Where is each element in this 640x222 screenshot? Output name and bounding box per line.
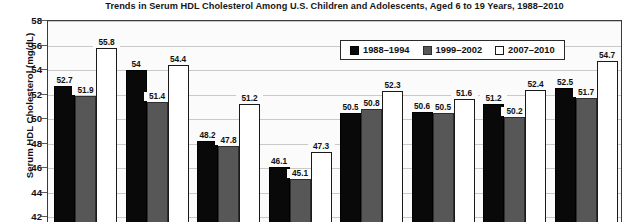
bar-group-2-series-2 — [147, 102, 168, 222]
bar-group-8-series-2 — [576, 98, 597, 222]
legend-label-3: 2007–2010 — [508, 45, 555, 55]
gray-square-icon — [423, 46, 432, 55]
y-tick-label-42: 42 — [12, 211, 42, 222]
bar-group-5-series-2 — [361, 109, 382, 222]
bar-value-label-g6-s2: 50.5 — [430, 103, 457, 112]
bar-group-1-series-1 — [54, 86, 75, 222]
bar-group-3-series-2 — [218, 146, 239, 222]
bar-value-label-g1-s3: 55.8 — [93, 38, 120, 47]
bar-group-6-series-2 — [433, 113, 454, 222]
bar-group-3-series-3 — [239, 104, 260, 222]
bar-group-1-series-2 — [75, 96, 96, 222]
legend-label-2: 1999–2002 — [436, 45, 483, 55]
bar-value-label-g4-s2: 45.1 — [287, 169, 314, 178]
y-tick-label-46: 46 — [12, 162, 42, 173]
chart-title: Trends in Serum HDL Cholesterol Among U.… — [47, 1, 622, 11]
y-tick-label-52: 52 — [12, 88, 42, 99]
bar-group-3-series-1 — [197, 141, 218, 222]
gridline-58 — [48, 21, 621, 22]
chart-legend: 1988–19941999–20022007–2010 — [340, 40, 565, 60]
y-axis-title: Serum HDL Cholesterol (mg/dL) — [24, 6, 35, 206]
bar-value-label-g7-s1: 51.2 — [480, 94, 507, 103]
bar-group-8-series-1 — [555, 88, 576, 222]
bar-group-5-series-1 — [340, 113, 361, 222]
bar-value-label-g4-s3: 47.3 — [308, 142, 335, 151]
y-tick-label-54: 54 — [12, 64, 42, 75]
white-square-icon — [495, 46, 504, 55]
bar-value-label-g5-s2: 50.8 — [358, 99, 385, 108]
bar-group-2-series-3 — [168, 65, 189, 222]
bar-value-label-g6-s3: 51.6 — [451, 89, 478, 98]
bar-value-label-g8-s1: 52.5 — [552, 78, 579, 87]
bar-value-label-g1-s2: 51.9 — [72, 86, 99, 95]
bar-value-label-g5-s3: 52.3 — [379, 81, 406, 90]
bar-value-label-g1-s1: 52.7 — [51, 76, 78, 85]
bar-value-label-g2-s3: 54.4 — [165, 55, 192, 64]
bar-value-label-g2-s1: 54 — [123, 60, 150, 69]
bar-group-4-series-3 — [311, 152, 332, 222]
legend-item-3[interactable]: 2007–2010 — [495, 45, 555, 55]
bar-chart: Trends in Serum HDL Cholesterol Among U.… — [0, 0, 640, 222]
y-tick-label-58: 58 — [12, 15, 42, 26]
bar-group-4-series-2 — [290, 179, 311, 222]
black-square-icon — [350, 46, 359, 55]
legend-label-1: 1988–1994 — [363, 45, 410, 55]
legend-item-1[interactable]: 1988–1994 — [350, 45, 410, 55]
bar-value-label-g8-s2: 51.7 — [573, 88, 600, 97]
bar-value-label-g3-s2: 47.8 — [215, 136, 242, 145]
bar-group-7-series-2 — [504, 117, 525, 222]
bar-group-6-series-1 — [412, 112, 433, 222]
bar-group-5-series-3 — [382, 91, 403, 222]
bar-value-label-g4-s1: 46.1 — [266, 157, 293, 166]
bar-group-6-series-3 — [454, 99, 475, 222]
bar-value-label-g2-s2: 51.4 — [144, 92, 171, 101]
y-tick-label-56: 56 — [12, 39, 42, 50]
bar-value-label-g7-s3: 52.4 — [522, 80, 549, 89]
bar-group-7-series-1 — [483, 104, 504, 222]
bar-value-label-g7-s2: 50.2 — [501, 107, 528, 116]
bar-group-8-series-3 — [597, 61, 618, 222]
bar-group-7-series-3 — [525, 90, 546, 222]
bar-value-label-g3-s3: 51.2 — [236, 94, 263, 103]
legend-item-2[interactable]: 1999–2002 — [423, 45, 483, 55]
y-tick-label-44: 44 — [12, 186, 42, 197]
bar-value-label-g8-s3: 54.7 — [594, 51, 621, 60]
y-tick-label-50: 50 — [12, 113, 42, 124]
y-tick-label-48: 48 — [12, 137, 42, 148]
bar-group-1-series-3 — [96, 48, 117, 222]
